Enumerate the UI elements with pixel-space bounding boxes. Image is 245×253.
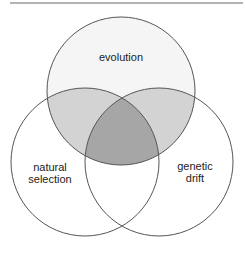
label-evolution: evolution (99, 51, 143, 63)
venn-diagram-svg: evolution natural selection genetic drif… (0, 0, 245, 253)
label-drift: drift (186, 172, 204, 184)
venn-diagram: evolution natural selection genetic drif… (0, 0, 245, 253)
label-genetic: genetic (177, 160, 213, 172)
label-natural: natural (33, 161, 67, 173)
label-selection: selection (28, 173, 71, 185)
